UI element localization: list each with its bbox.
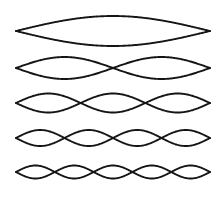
harmonic-3-branch-upper <box>16 94 210 113</box>
harmonic-1-branch-upper <box>16 16 210 31</box>
harmonic-4-branch-lower <box>16 130 210 146</box>
wave-group <box>16 16 210 179</box>
harmonic-3-branch-lower <box>16 94 210 113</box>
standing-wave-harmonics-figure <box>0 0 222 201</box>
harmonics-canvas <box>0 0 222 201</box>
harmonic-2-branch-lower <box>16 57 210 79</box>
harmonic-1-branch-lower <box>16 31 210 46</box>
